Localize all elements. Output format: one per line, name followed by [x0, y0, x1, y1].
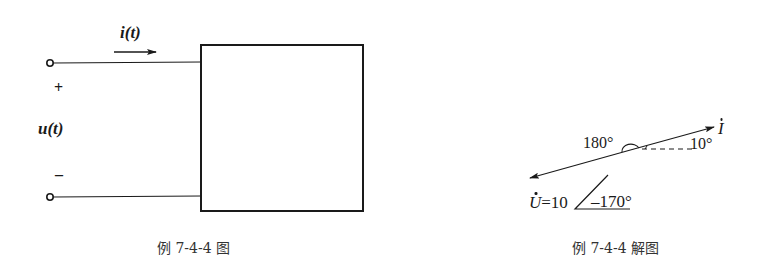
voltage-angle-label: –170° — [591, 193, 632, 210]
voltage-magnitude: =10 — [541, 193, 568, 212]
current-phasor-symbol: I — [718, 120, 724, 137]
voltage-phasor-arrow — [530, 149, 634, 178]
left-caption: 例 7-4-4 图 — [157, 241, 230, 255]
voltage-phasor-expression: U=10 — [529, 194, 568, 211]
plus-sign: + — [54, 80, 63, 96]
top-wire — [53, 62, 201, 63]
current-phasor-label: I — [718, 120, 724, 137]
right-caption: 例 7-4-4 解图 — [572, 241, 659, 255]
angle-10-label: 10° — [690, 136, 712, 152]
network-box — [201, 45, 363, 211]
diagram-canvas — [0, 0, 768, 276]
bottom-terminal — [47, 194, 53, 200]
circuit-figure — [47, 45, 363, 211]
angle-180-label: 180° — [583, 135, 613, 151]
current-label: i(t) — [120, 24, 141, 41]
voltage-label: u(t) — [38, 120, 64, 137]
top-terminal — [47, 60, 53, 66]
voltage-phasor-symbol: U — [529, 194, 541, 211]
bottom-wire — [53, 196, 201, 197]
minus-sign: – — [55, 167, 63, 183]
